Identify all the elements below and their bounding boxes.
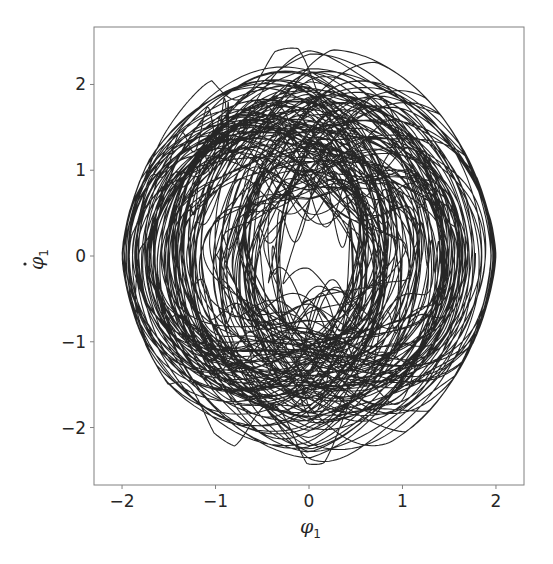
y-tick-label: −1	[61, 332, 86, 352]
dot-accent	[23, 262, 26, 265]
y-tick-label: 1	[75, 160, 86, 180]
x-tick-label: 0	[304, 491, 315, 511]
x-tick-label: −1	[203, 491, 228, 511]
y-tick-label: −2	[61, 418, 86, 438]
x-tick-label: 2	[491, 491, 502, 511]
phase-portrait-figure: −2−1012 −2−1012 φ1 φ1	[0, 0, 553, 564]
y-tick-label: 0	[75, 246, 86, 266]
x-tick-label: 1	[397, 491, 408, 511]
y-tick-label: 2	[75, 74, 86, 94]
x-tick-label: −2	[110, 491, 135, 511]
